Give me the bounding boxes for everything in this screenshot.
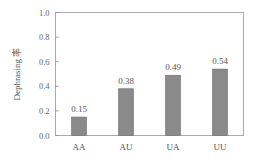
bar-au [119,89,134,136]
bar-value-label: 0.38 [118,76,134,86]
bar-uu [213,69,228,135]
bar-chart: 0.00.20.40.60.81.0 0.15AA0.38AU0.49UA0.5… [0,0,255,162]
x-category-label: UA [167,142,180,152]
y-axis-label: Dephrasing 率 [11,48,22,101]
y-tick-label: 0.0 [39,131,50,141]
x-category-label: AA [73,142,86,152]
bar-value-label: 0.49 [165,62,181,72]
bar-aa [72,117,87,135]
y-tick-label: 0.4 [39,81,50,91]
bar-value-label: 0.54 [212,56,228,66]
y-tick-label: 0.2 [39,106,50,116]
x-category-label: AU [120,142,133,152]
bars: 0.15AA0.38AU0.49UA0.54UU [71,56,228,151]
y-tick-label: 1.0 [39,8,50,18]
y-tick-label: 0.8 [39,32,50,42]
x-category-label: UU [214,142,227,152]
bar-ua [166,75,181,135]
bar-value-label: 0.15 [71,104,87,114]
y-tick-label: 0.6 [39,57,50,67]
